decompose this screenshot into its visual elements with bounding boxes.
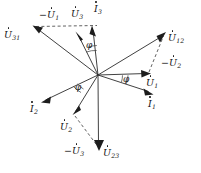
shaft-u1	[98, 74, 146, 76]
label-i1: I1	[148, 99, 156, 109]
dashed-neg-u3	[75, 116, 98, 146]
label-neg-u2: −U2	[161, 58, 181, 68]
shaft-i3	[93, 30, 98, 75]
shaft-u23	[98, 75, 99, 145]
label-u2: U2	[60, 122, 72, 132]
dashed-construction-group	[36, 26, 164, 147]
label-u1: U1	[146, 78, 158, 88]
phasor-vector-canvas	[0, 0, 201, 173]
arrowhead-group	[33, 26, 167, 152]
angle-arc-group	[74, 46, 129, 93]
arrowhead-i1	[144, 89, 154, 96]
arrowhead-i2	[41, 97, 51, 104]
arrowhead-u3	[76, 32, 84, 42]
label-i3: I3	[94, 4, 102, 14]
shaft-u12	[98, 37, 162, 76]
label-phi-right: φ	[123, 74, 129, 84]
arrowhead-u2	[73, 106, 82, 116]
label-i2: I2	[30, 104, 38, 114]
label-phi-top: φ	[86, 40, 92, 50]
label-u23: U23	[103, 148, 119, 158]
label-u31: U31	[4, 30, 20, 40]
label-u3: U3	[71, 9, 83, 19]
shaft-u31	[37, 29, 98, 76]
phasor-shaft-group	[37, 29, 162, 146]
label-neg-u1: −U1	[39, 10, 59, 20]
label-neg-u3: −U3	[64, 146, 84, 156]
phasor-diagram-figure: U31 −U1 U3 I3 U12 −U2 U1 I1 I2 U2 −U3 U2…	[0, 0, 201, 173]
arrowhead-i3	[90, 26, 97, 37]
label-phi-left: φ	[75, 82, 81, 92]
label-u12: U12	[168, 33, 184, 43]
dashed-neg-u1	[36, 26, 97, 27]
